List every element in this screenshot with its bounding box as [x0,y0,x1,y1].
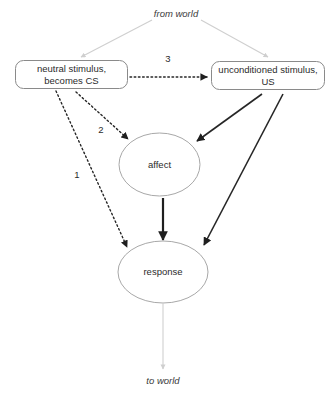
response-label: response [143,266,182,277]
conditioning-diagram: from world neutral stimulus, becomes CS … [0,0,334,398]
from-world-label: from world [154,8,199,19]
cs-label-line1: neutral stimulus, [37,63,106,74]
node-response[interactable]: response [118,241,208,303]
node-neutral-stimulus-cs[interactable]: neutral stimulus, becomes CS [16,61,128,89]
affect-label: affect [148,159,171,170]
edge-label-3: 3 [165,53,170,64]
to-world-label: to world [146,375,180,386]
node-unconditioned-stimulus-us[interactable]: unconditioned stimulus, US [212,62,325,90]
cs-label-line2: becomes CS [44,75,98,86]
us-label-line2: US [261,76,274,87]
edge-world-to-us [201,20,268,57]
edge-label-2: 2 [98,124,103,135]
edge-us-to-response [204,94,283,245]
edge-label-1: 1 [74,169,79,180]
edge-us-to-affect [197,94,262,141]
edge-cs-to-response [56,91,127,247]
node-affect[interactable]: affect [119,133,200,196]
edge-world-to-cs [81,20,152,57]
diagram-canvas: from world neutral stimulus, becomes CS … [0,0,334,398]
us-label-line1: unconditioned stimulus, [218,64,317,75]
